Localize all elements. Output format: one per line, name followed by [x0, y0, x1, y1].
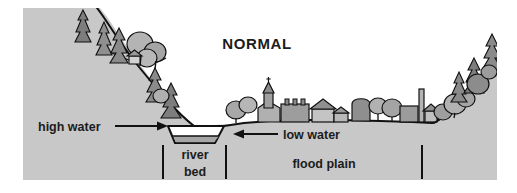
low-water-band — [173, 136, 219, 142]
building-village-3 — [352, 99, 370, 121]
building-with-chimneys — [281, 99, 309, 122]
label-river-bed-line1: river — [181, 148, 208, 162]
smokestack — [419, 89, 424, 122]
label-flood-plain: flood plain — [292, 157, 355, 171]
tree-right-5 — [481, 65, 497, 79]
tree-village-2 — [239, 97, 257, 113]
tree-deciduous-left-4 — [153, 89, 169, 103]
tree-village-4 — [382, 99, 402, 117]
diagram-figure: NORMAL high water low water river bed fl… — [0, 0, 517, 193]
building-village-4 — [400, 106, 418, 122]
diagram-title: NORMAL — [222, 35, 291, 52]
river-valley-diagram: NORMAL high water low water river bed fl… — [0, 0, 517, 193]
scene-group: NORMAL high water low water river bed fl… — [23, 8, 502, 180]
label-low-water: low water — [283, 128, 340, 142]
label-high-water: high water — [38, 120, 101, 134]
label-river-bed-line2: bed — [184, 165, 206, 179]
church-tower — [264, 92, 273, 108]
